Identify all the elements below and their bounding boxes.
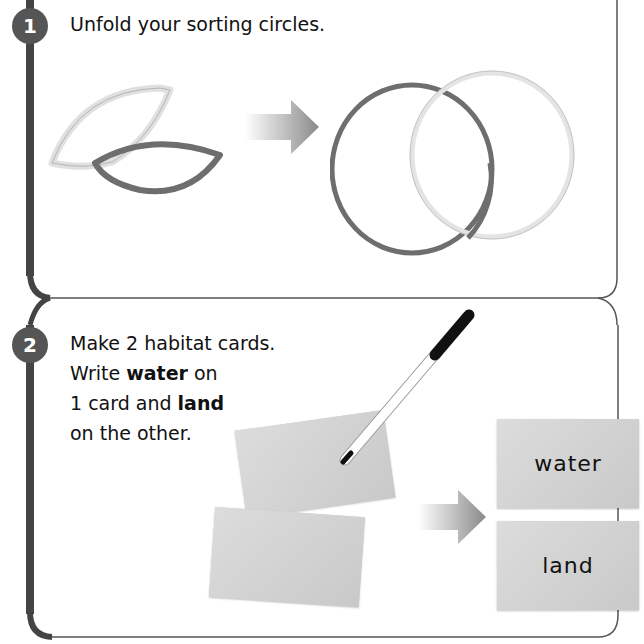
- step-1-instruction: Unfold your sorting circles.: [70, 9, 325, 39]
- arrow-right-icon: [418, 490, 490, 544]
- instruction-line-3: 1 card and land: [70, 388, 275, 418]
- step-number-badge: 1: [12, 8, 48, 44]
- instruction-line-1: Make 2 habitat cards.: [70, 328, 275, 358]
- unfolded-circles-illustration: [330, 55, 590, 265]
- land-habitat-card: land: [497, 521, 639, 610]
- instruction-line-2: Write water on: [70, 358, 275, 388]
- blank-card-bottom: [209, 507, 365, 607]
- water-habitat-card: water: [497, 419, 639, 508]
- card-label: water: [534, 451, 602, 476]
- arrow-right-icon: [245, 100, 325, 154]
- marker-pen-icon: [335, 305, 480, 470]
- card-label: land: [542, 553, 594, 578]
- step-number-badge: 2: [12, 327, 48, 363]
- folded-circles-illustration: [40, 70, 240, 200]
